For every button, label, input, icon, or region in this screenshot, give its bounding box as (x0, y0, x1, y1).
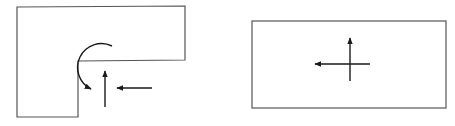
left-panel (17, 6, 185, 117)
diagram-canvas (0, 0, 455, 126)
curved-arrow-icon (78, 44, 112, 89)
right-panel (252, 21, 446, 108)
diagram-svg (0, 0, 455, 126)
l-shape-outline (17, 6, 185, 117)
